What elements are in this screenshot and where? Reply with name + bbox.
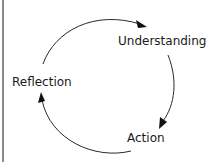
node-action: Action [127, 131, 165, 145]
arrowhead-reflection-icon [38, 92, 45, 103]
cycle-diagram: Understanding Action Reflection [0, 0, 208, 162]
arrowhead-understanding-icon [136, 20, 147, 28]
node-reflection: Reflection [12, 75, 72, 89]
arrowhead-action-icon [159, 117, 167, 129]
edge-action-to-reflection [42, 100, 131, 153]
edge-understanding-to-action [163, 55, 174, 121]
node-understanding: Understanding [118, 34, 206, 48]
